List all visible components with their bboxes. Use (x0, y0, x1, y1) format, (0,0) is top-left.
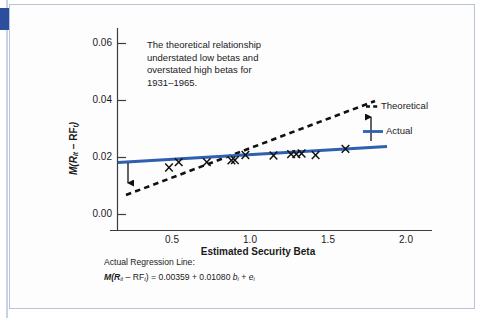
x-tick-label: 2.0 (389, 234, 423, 245)
caption-heading: Actual Regression Line: (104, 257, 195, 267)
callout-line-3: overstated high betas for (147, 64, 261, 77)
y-axis-title: M(Rit – RFt) (68, 122, 79, 175)
y-axis-ticks (118, 44, 127, 215)
marker-x (165, 164, 173, 172)
x-tick-label: 1.0 (233, 234, 267, 245)
y-tick-label: 0.06 (78, 37, 112, 48)
callout-line-1: The theoretical relationship (147, 39, 261, 52)
y-axis-title-m: M (68, 167, 79, 175)
eq-minus: – RF (123, 272, 144, 282)
legend-label-actual: Actual (386, 125, 412, 136)
y-axis-title-minus: – RF (68, 127, 79, 151)
eq-rhs: = 0.00359 + 0.01080 (149, 272, 233, 282)
y-axis-title-rf-sub: t (72, 125, 79, 127)
y-tick-label: 0.02 (78, 151, 112, 162)
caption-equation: M(Rit – RFt) = 0.00359 + 0.01080 bi + ei (104, 272, 255, 282)
series-actual-line (118, 147, 387, 163)
marker-x (203, 158, 211, 166)
x-axis-title: Estimated Security Beta (183, 246, 333, 257)
x-tick-label: 0.5 (155, 234, 189, 245)
y-axis-title-r-sub: it (72, 152, 79, 156)
eq-e-sub: i (253, 276, 254, 282)
y-tick-label: 0.04 (78, 94, 112, 105)
eq-plus: + (239, 272, 249, 282)
callout-line-2: understated low betas and (147, 52, 261, 65)
figure-container: 0.06 0.04 0.02 0.00 0.5 1.0 1.5 2.0 Esti… (0, 0, 484, 318)
callout-annotation: The theoretical relationship understated… (147, 39, 261, 89)
y-axis-title-r: R (68, 156, 79, 163)
y-tick-label: 0.00 (78, 208, 112, 219)
y-axis-title-paren-close: ) (68, 122, 79, 125)
series-theoretical-line (126, 101, 375, 195)
y-axis-title-paren-open: ( (68, 163, 79, 166)
callout-line-4: 1931–1965. (147, 77, 261, 90)
legend-label-theoretical: Theoretical (381, 100, 428, 111)
marker-x (312, 151, 320, 159)
x-tick-label: 1.5 (311, 234, 345, 245)
